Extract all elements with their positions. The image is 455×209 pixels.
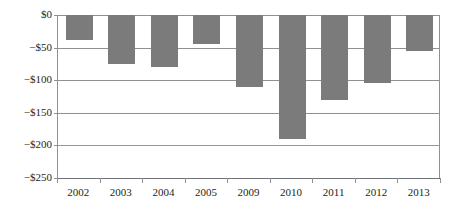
x-tick-mark (227, 178, 228, 183)
x-axis-label-2005: 2005 (185, 186, 228, 198)
plot-area: $0−$50−$100−$150−$200−$250 (57, 15, 440, 178)
y-tick-label: $0 (6, 9, 52, 20)
x-tick-mark (185, 178, 186, 183)
bars-layer (58, 15, 439, 178)
bar-2009[interactable] (236, 15, 263, 87)
bar-2011[interactable] (321, 15, 348, 100)
bar-2004[interactable] (151, 15, 178, 67)
bar-2012[interactable] (364, 15, 391, 83)
x-tick-mark (397, 178, 398, 183)
bar-2013[interactable] (406, 15, 433, 51)
y-tick-label: −$50 (6, 42, 52, 53)
x-axis-label-2009: 2009 (227, 186, 270, 198)
y-tick-label: −$200 (6, 139, 52, 150)
x-tick-mark (57, 178, 58, 183)
bar-2005[interactable] (193, 15, 220, 44)
x-axis-label-2012: 2012 (355, 186, 398, 198)
bar-2002[interactable] (66, 15, 93, 40)
bar-2010[interactable] (279, 15, 306, 139)
x-tick-mark (100, 178, 101, 183)
x-tick-mark (440, 178, 441, 183)
x-tick-mark (355, 178, 356, 183)
x-axis-label-2010: 2010 (270, 186, 313, 198)
x-axis-label-2013: 2013 (397, 186, 440, 198)
x-tick-mark (142, 178, 143, 183)
x-tick-mark (312, 178, 313, 183)
x-tick-mark (270, 178, 271, 183)
y-tick-label: −$100 (6, 74, 52, 85)
y-tick-label: −$150 (6, 107, 52, 118)
x-axis-label-2011: 2011 (312, 186, 355, 198)
x-axis-label-2004: 2004 (142, 186, 185, 198)
y-tick-label: −$250 (6, 172, 52, 183)
bar-chart: $0−$50−$100−$150−$200−$250 2002200320042… (0, 0, 455, 209)
x-axis-label-2002: 2002 (57, 186, 100, 198)
bar-2003[interactable] (108, 15, 135, 64)
x-axis-line (57, 178, 440, 179)
x-axis-label-2003: 2003 (100, 186, 143, 198)
